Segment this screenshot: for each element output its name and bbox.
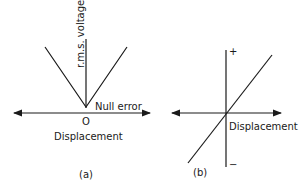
figure-b-linear-curve (188, 55, 272, 163)
figure-a-caption: (a) (79, 169, 93, 180)
figure-a-y-axis-label: r.m.s. voltage (75, 0, 86, 68)
figure-a-null-error-label: Null error (95, 101, 142, 112)
figure-a-origin-label: O (82, 116, 90, 127)
figure-a-x-axis-label: Displacement (54, 131, 123, 142)
figure-b-plus-label: + (229, 46, 237, 57)
figure-b-x-axis-label: Displacement (229, 121, 298, 132)
figure-b-graph (172, 50, 281, 167)
figure-b-minus-label: − (229, 159, 237, 170)
figure-b-caption: (b) (193, 167, 207, 178)
diagram-canvas (0, 0, 301, 185)
